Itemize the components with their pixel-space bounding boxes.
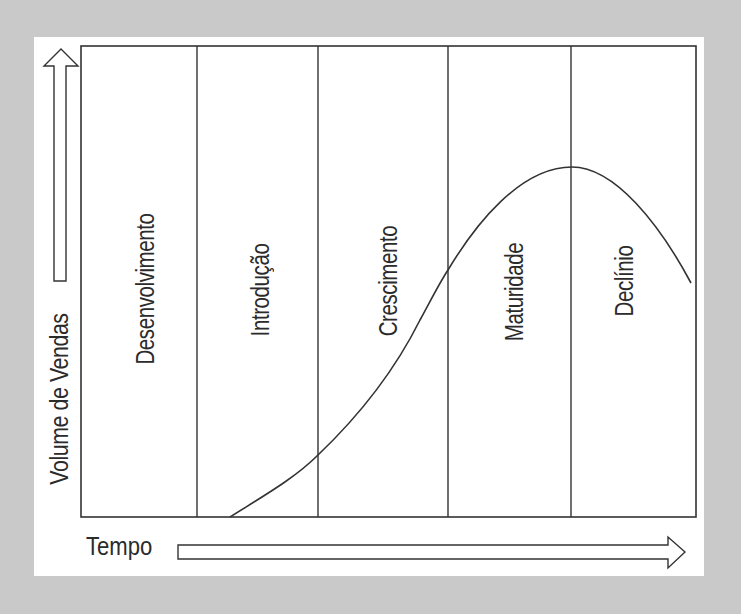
- sales-curve: [230, 167, 691, 517]
- stage-label-declinio: Declínio: [610, 238, 639, 324]
- stage-label-crescimento: Crescimento: [374, 214, 403, 349]
- stage-label-desenvolvimento: Desenvolvimento: [131, 197, 160, 381]
- x-axis-label: Tempo: [86, 531, 164, 562]
- x-axis-arrow-icon: [178, 537, 685, 568]
- y-axis-label: Volume de Vendas: [44, 295, 75, 504]
- stage-label-introducao: Introdução: [246, 233, 275, 346]
- stage-label-maturidade: Maturidade: [500, 232, 529, 352]
- y-axis-arrow-icon: [44, 49, 78, 281]
